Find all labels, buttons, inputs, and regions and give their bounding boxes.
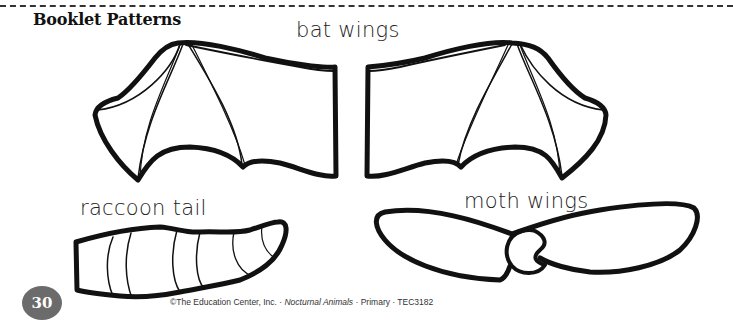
- footer-credit: ©The Education Center, Inc. · Nocturnal …: [170, 297, 433, 307]
- footer-copyright: ©The Education Center, Inc. ·: [170, 297, 284, 307]
- page-number-badge: 30: [22, 286, 62, 320]
- right-bat-wing-icon: [367, 42, 606, 178]
- footer-book-title: Nocturnal Animals: [284, 297, 353, 307]
- left-bat-wing-icon: [95, 42, 336, 180]
- pattern-artwork: [0, 0, 733, 320]
- moth-wings-icon: [376, 204, 697, 280]
- raccoon-tail-icon: [76, 222, 286, 298]
- footer-suffix: · Primary · TEC3182: [353, 297, 433, 307]
